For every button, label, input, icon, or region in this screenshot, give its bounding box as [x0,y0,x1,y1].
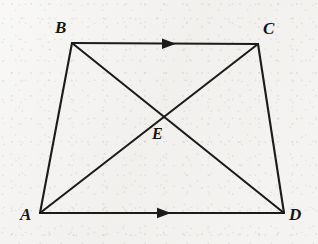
geometry-figure: A B C D E [0,0,318,244]
side-ab [40,43,72,213]
vertex-label-a: A [20,206,31,223]
parallel-mark-ad-arrow-icon [157,208,171,218]
vertex-label-e: E [152,126,163,142]
side-cd [258,44,284,213]
diagonal-ac [40,44,258,213]
vertex-label-d: D [289,206,301,223]
vertex-label-c: C [263,20,274,37]
diagonal-bd [72,43,284,213]
parallel-mark-bc-arrow-icon [162,39,176,49]
vertex-label-b: B [55,19,66,36]
